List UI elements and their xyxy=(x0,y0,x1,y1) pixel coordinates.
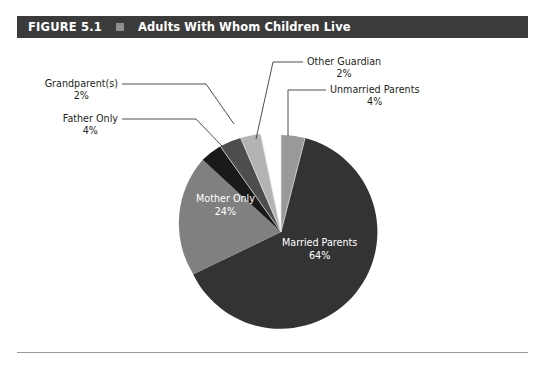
callout-unmarried-value: 4% xyxy=(330,96,419,108)
leader-line-other-guardian xyxy=(256,62,303,139)
callout-other-name: Other Guardian xyxy=(307,56,381,67)
pie-chart-graphic xyxy=(0,0,547,366)
callout-other-value: 2% xyxy=(307,68,381,80)
leader-line-unmarried-parents xyxy=(288,90,326,136)
figure-bottom-rule xyxy=(17,352,528,353)
slice-mother-name: Mother Only xyxy=(196,193,255,204)
slice-mother-value: 24% xyxy=(196,205,255,218)
callout-label-father-only: Father Only 4% xyxy=(63,113,118,137)
callout-unmarried-name: Unmarried Parents xyxy=(330,84,419,95)
slice-label-married-parents: Married Parents 64% xyxy=(282,236,357,262)
callout-label-grandparents: Grandparent(s) 2% xyxy=(45,78,118,102)
slice-married-value: 64% xyxy=(282,249,357,262)
leader-line-grandparents xyxy=(122,84,234,124)
pie-chart: Grandparent(s) 2% Father Only 4% Other G… xyxy=(0,0,547,366)
slice-label-mother-only: Mother Only 24% xyxy=(196,192,255,218)
callout-grandparents-name: Grandparent(s) xyxy=(45,78,118,89)
callout-label-unmarried-parents: Unmarried Parents 4% xyxy=(330,84,419,108)
callout-leader-lines xyxy=(122,62,326,146)
callout-label-other-guardian: Other Guardian 2% xyxy=(307,56,381,80)
callout-grandparents-value: 2% xyxy=(45,90,118,102)
callout-father-name: Father Only xyxy=(63,113,118,124)
slice-married-name: Married Parents xyxy=(282,237,357,248)
callout-father-value: 4% xyxy=(63,125,118,137)
leader-line-father-only xyxy=(122,119,222,146)
